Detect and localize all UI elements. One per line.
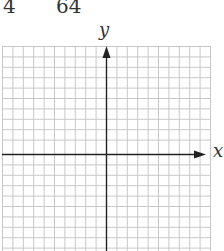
y-axis-arrow-icon: [103, 46, 111, 58]
coordinate-grid: [0, 0, 224, 251]
